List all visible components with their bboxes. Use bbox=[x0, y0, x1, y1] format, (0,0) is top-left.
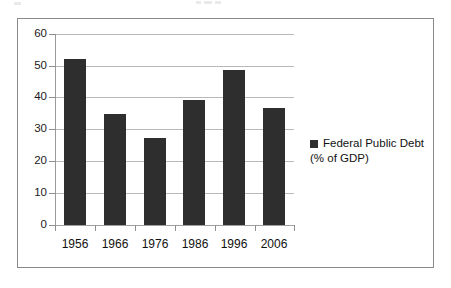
x-tick bbox=[175, 225, 176, 231]
y-axis-label: 60 bbox=[21, 28, 47, 40]
x-axis-label: 1966 bbox=[95, 238, 135, 250]
chart-legend: Federal Public Debt (% of GDP) bbox=[310, 136, 434, 166]
y-axis-label: 30 bbox=[21, 123, 47, 135]
y-tick-10 bbox=[49, 193, 56, 194]
gridline-40 bbox=[55, 97, 294, 98]
y-axis-label: 0 bbox=[21, 219, 47, 231]
x-tick bbox=[294, 225, 295, 231]
y-axis-label: 40 bbox=[21, 91, 47, 103]
bar-1996 bbox=[223, 70, 245, 225]
x-axis-label: 1956 bbox=[55, 238, 95, 250]
gridline-30 bbox=[55, 129, 294, 130]
y-tick-30 bbox=[49, 129, 56, 130]
gridline-50 bbox=[55, 66, 294, 67]
bar-1966 bbox=[104, 114, 126, 225]
y-axis-label: 50 bbox=[21, 60, 47, 72]
y-tick-40 bbox=[49, 97, 56, 98]
scan-artifact-mark bbox=[196, 1, 201, 4]
y-axis-label: 20 bbox=[21, 155, 47, 167]
gridline-60 bbox=[55, 34, 294, 35]
scan-artifact-mark bbox=[204, 1, 212, 4]
x-axis-label: 2006 bbox=[254, 238, 294, 250]
legend-label-line-1: Federal Public Debt bbox=[323, 136, 424, 151]
y-axis-labels: 60 50 40 30 20 10 0 bbox=[18, 19, 47, 267]
y-axis-label: 10 bbox=[21, 187, 47, 199]
scan-artifact-mark bbox=[215, 1, 221, 4]
x-tick bbox=[255, 225, 256, 231]
scan-artifact-mark bbox=[14, 2, 21, 5]
x-tick bbox=[135, 225, 136, 231]
x-axis-label: 1976 bbox=[135, 238, 175, 250]
legend-entry: Federal Public Debt bbox=[310, 136, 434, 151]
y-tick-50 bbox=[49, 66, 56, 67]
bar-2006 bbox=[263, 108, 285, 225]
x-tick bbox=[215, 225, 216, 231]
bar-1956 bbox=[64, 59, 86, 225]
x-tick bbox=[55, 225, 56, 231]
gridline-10 bbox=[55, 193, 294, 194]
legend-square-icon bbox=[310, 140, 318, 148]
gridline-20 bbox=[55, 161, 294, 162]
x-tick bbox=[95, 225, 96, 231]
chart-frame: #chart-frame > .gridline { left: 37px; w… bbox=[17, 18, 434, 268]
bar-1976 bbox=[144, 138, 166, 225]
y-tick-60 bbox=[49, 34, 56, 35]
y-tick-20 bbox=[49, 161, 56, 162]
x-axis-label: 1986 bbox=[175, 238, 215, 250]
x-axis-label: 1996 bbox=[214, 238, 254, 250]
scan-artifacts bbox=[0, 0, 451, 14]
bar-1986 bbox=[183, 100, 205, 225]
legend-label-line-2: (% of GDP) bbox=[310, 151, 434, 166]
